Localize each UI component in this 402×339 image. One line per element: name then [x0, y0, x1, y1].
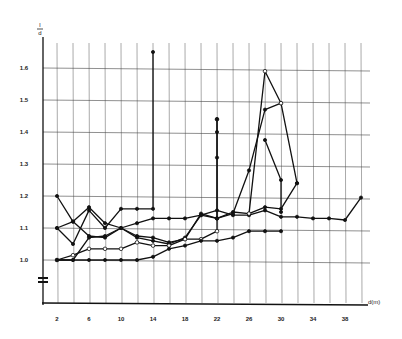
data-point-marker — [151, 255, 154, 258]
grid-line-vertical — [329, 43, 330, 303]
data-point-marker — [263, 206, 266, 209]
x-tick-label: 14 — [150, 316, 157, 322]
grid-line-vertical — [73, 43, 74, 303]
grid-line-horizontal — [43, 228, 370, 231]
grid-line-vertical — [169, 43, 170, 303]
data-point-marker — [103, 258, 106, 261]
data-point-marker — [119, 207, 122, 210]
grid-line-vertical — [281, 43, 282, 303]
series-series-9 — [263, 138, 282, 213]
grid-line-vertical — [361, 43, 362, 303]
data-point-marker — [87, 206, 90, 209]
x-tick-label: 2 — [55, 316, 59, 322]
x-tick-label: 26 — [246, 316, 253, 322]
data-point-marker — [295, 182, 298, 185]
y-axis-label: l d — [37, 22, 43, 36]
data-series — [55, 50, 362, 261]
data-point-marker — [247, 230, 250, 233]
x-axis-tick-labels: 261014182226303438 — [55, 316, 349, 322]
y-tick-label: 1.4 — [20, 129, 29, 135]
data-point-marker — [71, 242, 74, 245]
data-point-marker — [135, 258, 138, 261]
data-point-marker — [279, 178, 282, 181]
grid-line-vertical — [233, 43, 234, 303]
data-point-marker — [327, 217, 330, 220]
grid-line-vertical — [249, 43, 250, 303]
data-point-marker — [135, 236, 138, 239]
data-point-marker — [119, 247, 123, 251]
grid-line-vertical — [89, 43, 90, 303]
x-tick-label: 6 — [87, 316, 91, 322]
data-point-marker — [71, 258, 74, 261]
data-point-marker — [183, 237, 187, 241]
data-point-marker — [151, 207, 154, 210]
data-point-marker — [135, 222, 138, 225]
grid-line-horizontal — [43, 132, 370, 135]
data-point-marker — [311, 217, 314, 220]
axis-break-icon — [38, 277, 48, 279]
data-point-marker — [135, 241, 139, 245]
data-point-marker — [87, 209, 90, 212]
data-point-marker — [215, 130, 218, 133]
data-point-marker — [87, 247, 91, 251]
series-series-7 — [215, 118, 218, 220]
data-point-marker — [55, 194, 58, 197]
data-point-marker — [215, 156, 218, 159]
data-point-marker — [295, 215, 298, 218]
data-point-marker — [263, 209, 266, 212]
data-point-marker — [279, 230, 282, 233]
x-tick-label: 10 — [118, 316, 125, 322]
svg-text:d: d — [38, 30, 41, 36]
grid-lines — [43, 43, 370, 303]
data-point-marker — [87, 258, 90, 261]
series-series-5 — [55, 117, 219, 261]
data-point-marker — [103, 222, 106, 225]
x-tick-label: 34 — [310, 316, 317, 322]
data-point-marker — [167, 247, 170, 250]
data-point-marker — [103, 247, 107, 251]
y-axis-tick-labels: 1.01.11.21.31.41.51.6 — [20, 65, 29, 263]
grid-line-horizontal — [43, 196, 370, 199]
data-point-marker — [215, 239, 218, 242]
data-point-marker — [263, 138, 266, 141]
data-point-marker — [55, 258, 58, 261]
data-point-marker — [279, 210, 282, 213]
data-point-marker — [215, 229, 219, 233]
y-tick-label: 1.2 — [20, 193, 29, 199]
grid-line-vertical — [297, 43, 298, 303]
data-point-marker — [279, 101, 283, 105]
grid-line-vertical — [105, 43, 106, 303]
grid-line-vertical — [185, 43, 186, 303]
data-point-marker — [279, 215, 282, 218]
data-point-marker — [199, 239, 202, 242]
data-point-marker — [151, 217, 154, 220]
svg-text:l: l — [39, 22, 40, 28]
grid-line-vertical — [265, 43, 266, 303]
data-point-marker — [87, 236, 90, 239]
x-tick-label: 30 — [278, 316, 285, 322]
grid-line-vertical — [345, 43, 346, 303]
data-point-marker — [167, 217, 170, 220]
y-tick-label: 1.0 — [20, 257, 29, 263]
x-axis-label: d(m) — [368, 299, 380, 305]
data-point-marker — [263, 69, 267, 73]
data-point-marker — [343, 218, 346, 221]
grid-line-vertical — [201, 43, 202, 303]
data-point-marker — [119, 226, 122, 229]
data-point-marker — [183, 244, 186, 247]
data-point-marker — [199, 214, 202, 217]
data-point-marker — [247, 169, 250, 172]
grid-line-horizontal — [43, 164, 370, 167]
x-tick-label: 18 — [182, 316, 189, 322]
data-point-marker — [119, 258, 122, 261]
grid-line-horizontal — [43, 68, 370, 71]
data-point-marker — [151, 239, 154, 242]
data-point-marker — [231, 212, 234, 215]
x-axis — [42, 303, 368, 305]
grid-line-vertical — [121, 43, 122, 303]
x-tick-label: 22 — [214, 316, 221, 322]
series-series-4 — [55, 102, 298, 262]
data-point-marker — [215, 217, 218, 220]
series-series-3 — [55, 196, 362, 239]
x-tick-label: 38 — [342, 316, 349, 322]
